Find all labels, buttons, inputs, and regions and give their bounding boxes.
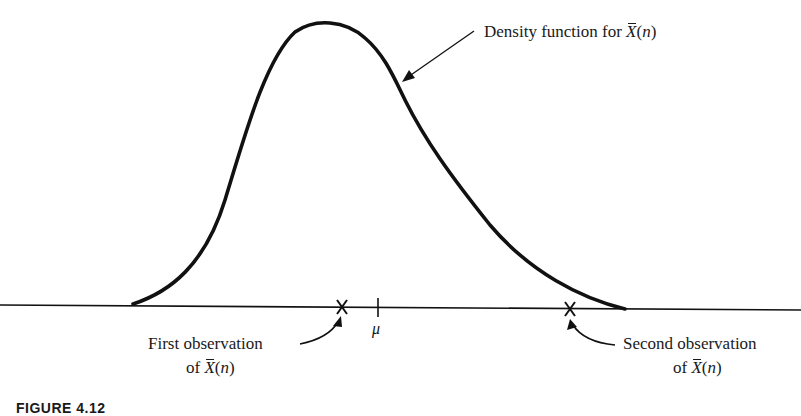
of-text: of xyxy=(186,358,204,377)
xbar-symbol: X xyxy=(691,358,701,378)
density-function-label: Density function for X(n) xyxy=(484,22,656,42)
n-symbol: n xyxy=(220,358,229,377)
first-observation-label-line1: First observation xyxy=(148,334,263,354)
density-label-arrow xyxy=(408,31,474,77)
n-symbol: n xyxy=(642,22,651,41)
paren-close: ) xyxy=(651,22,657,41)
xbar-symbol: X xyxy=(626,22,636,42)
second-observation-label-line2: of X(n) xyxy=(673,358,722,378)
paren-close: ) xyxy=(716,358,722,377)
n-symbol: n xyxy=(707,358,716,377)
density-curve xyxy=(133,23,625,309)
figure-caption: FIGURE 4.12 xyxy=(16,400,106,416)
first-observation-label-line2: of X(n) xyxy=(186,358,235,378)
density-label-text: Density function for xyxy=(484,22,626,41)
arrowhead-icon xyxy=(333,316,342,327)
xbar-symbol: X xyxy=(204,358,214,378)
arrowhead-icon xyxy=(402,70,415,82)
second-observation-label-line1: Second observation xyxy=(623,334,757,354)
horizontal-axis xyxy=(0,305,801,310)
mean-label: μ xyxy=(372,320,380,338)
first-observation-arrow xyxy=(300,322,338,344)
of-text: of xyxy=(673,358,691,377)
second-observation-arrow xyxy=(573,325,615,345)
paren-close: ) xyxy=(229,358,235,377)
